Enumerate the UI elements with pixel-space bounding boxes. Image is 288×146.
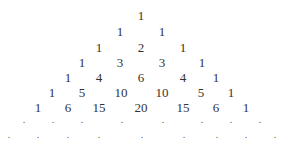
triangle-entry: 15 — [93, 101, 106, 114]
continuation-dot: . — [98, 130, 101, 140]
triangle-entry: 1 — [65, 71, 72, 84]
triangle-entry: 1 — [35, 101, 42, 114]
triangle-entry: 1 — [138, 9, 145, 22]
continuation-dot: . — [245, 130, 248, 140]
continuation-dot: . — [183, 130, 186, 140]
triangle-entry: 1 — [243, 101, 250, 114]
continuation-dot: . — [23, 115, 26, 125]
triangle-entry: 3 — [117, 56, 124, 69]
triangle-entry: 10 — [115, 86, 128, 99]
triangle-entry: 1 — [117, 25, 124, 38]
continuation-dot: . — [216, 130, 219, 140]
triangle-entry: 1 — [228, 86, 235, 99]
triangle-entry: 20 — [135, 101, 148, 114]
triangle-entry: 1 — [79, 56, 86, 69]
continuation-dot: . — [274, 130, 277, 140]
triangle-entry: 15 — [177, 101, 190, 114]
continuation-dot: . — [259, 115, 262, 125]
continuation-dot: . — [141, 130, 144, 140]
continuation-dot: . — [67, 130, 70, 140]
triangle-entry: 1 — [180, 41, 187, 54]
triangle-entry: 4 — [180, 71, 187, 84]
continuation-dot: . — [201, 115, 204, 125]
continuation-dot: . — [8, 130, 11, 140]
triangle-entry: 1 — [159, 25, 166, 38]
triangle-entry: 1 — [199, 56, 206, 69]
continuation-dot: . — [81, 115, 84, 125]
triangle-entry: 3 — [159, 56, 166, 69]
continuation-dot: . — [230, 115, 233, 125]
triangle-entry: 1 — [213, 71, 220, 84]
triangle-entry: 10 — [156, 86, 169, 99]
triangle-entry: 4 — [96, 71, 103, 84]
triangle-entry: 1 — [96, 41, 103, 54]
triangle-entry: 6 — [213, 101, 220, 114]
continuation-dot: . — [52, 115, 55, 125]
triangle-entry: 1 — [49, 86, 56, 99]
triangle-entry: 5 — [198, 86, 205, 99]
triangle-entry: 5 — [79, 86, 86, 99]
triangle-entry: 2 — [138, 41, 145, 54]
continuation-dot: . — [162, 115, 165, 125]
continuation-dot: . — [121, 115, 124, 125]
continuation-dot: . — [37, 130, 40, 140]
triangle-entry: 6 — [138, 71, 145, 84]
triangle-entry: 6 — [65, 101, 72, 114]
